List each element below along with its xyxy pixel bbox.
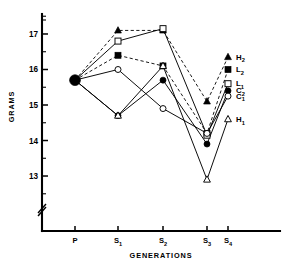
x-tick-label: S4 bbox=[224, 236, 233, 247]
line-chart: 1314151617PS1S2S3S4GENERATIONSGRAMSH2L2L… bbox=[0, 0, 297, 277]
data-point-h2-s1 bbox=[115, 27, 122, 33]
y-tick-label: 15 bbox=[29, 101, 39, 110]
data-point-c1-s4 bbox=[225, 93, 231, 99]
y-tick-label: 16 bbox=[29, 65, 39, 74]
series-line-l1 bbox=[75, 29, 228, 136]
y-axis-title: GRAMS bbox=[7, 91, 16, 123]
data-point-h1-s3 bbox=[204, 176, 211, 182]
data-point-c2-s2 bbox=[160, 77, 166, 83]
data-point-c1-s1 bbox=[115, 66, 121, 72]
x-tick-label: P bbox=[72, 236, 77, 245]
data-point-h1-s4 bbox=[225, 115, 232, 121]
data-point-c2-s3 bbox=[204, 141, 210, 147]
data-point-h2-s4 bbox=[225, 53, 232, 59]
origin-data-point bbox=[70, 75, 81, 86]
data-point-c1-s3 bbox=[204, 130, 210, 136]
data-point-l2-s1 bbox=[115, 52, 121, 58]
series-line-h1 bbox=[75, 66, 228, 180]
series-line-h2 bbox=[75, 30, 228, 101]
legend-label-h2: H2 bbox=[236, 53, 245, 64]
x-tick-label: S1 bbox=[114, 236, 122, 247]
data-point-l1-s4 bbox=[225, 81, 231, 87]
data-point-h2-s3 bbox=[204, 98, 211, 104]
legend-label-l2: L2 bbox=[236, 65, 244, 76]
series-line-l2 bbox=[75, 55, 228, 133]
data-point-l2-s4 bbox=[225, 66, 231, 72]
x-axis-title: GENERATIONS bbox=[130, 251, 193, 260]
x-tick-label: S2 bbox=[159, 236, 167, 247]
y-tick-label: 17 bbox=[29, 30, 39, 39]
y-tick-label: 13 bbox=[29, 172, 39, 181]
data-point-l1-s1 bbox=[115, 38, 121, 44]
y-tick-label: 14 bbox=[29, 137, 39, 146]
legend-label-h1: H1 bbox=[236, 115, 245, 126]
data-point-c1-s2 bbox=[160, 106, 166, 112]
chart-container: 1314151617PS1S2S3S4GENERATIONSGRAMSH2L2L… bbox=[0, 0, 297, 277]
x-tick-label: S3 bbox=[203, 236, 211, 247]
data-point-l1-s2 bbox=[160, 26, 166, 32]
